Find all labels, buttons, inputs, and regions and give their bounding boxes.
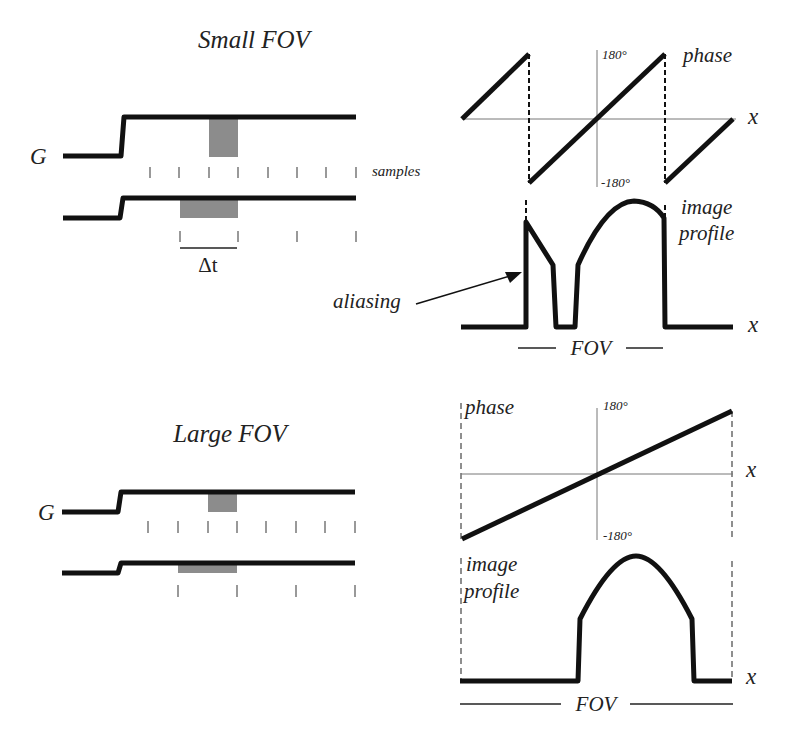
sample-ticks	[150, 167, 356, 178]
profile-label-line2: profile	[677, 221, 734, 245]
small-fov-phase-plot: 180° -180° phase x	[462, 43, 759, 190]
x-axis-label: x	[745, 457, 757, 482]
aliasing-label: aliasing	[333, 289, 401, 313]
phase-segment	[462, 54, 529, 119]
sample-interval-box	[208, 492, 237, 512]
sample-ticks	[178, 585, 355, 597]
large-fov-phase-plot: 180° -180° phase x	[461, 395, 757, 543]
samples-label: samples	[372, 163, 420, 179]
phase-max-label: 180°	[603, 398, 628, 413]
fov-label: FOV	[570, 336, 614, 360]
phase-min-label: -180°	[603, 528, 632, 543]
phase-label: phase	[463, 395, 514, 419]
phase-segment	[665, 119, 733, 183]
gradient-label: G	[30, 144, 47, 169]
aliasing-arrow	[416, 272, 522, 304]
large-fov-image-profile: image profile x FOV	[460, 552, 757, 716]
gradient-label: G	[38, 500, 55, 525]
profile-label-line1: image	[681, 195, 732, 219]
x-axis-label: x	[747, 104, 759, 129]
phase-min-label: -180°	[601, 175, 630, 190]
phase-max-label: 180°	[602, 47, 627, 62]
large-fov-title: Large FOV	[172, 420, 289, 447]
profile-label-line1: image	[466, 552, 517, 576]
small-fov-gradient-strong: G samples	[30, 117, 420, 179]
profile-x-label: x	[747, 312, 759, 337]
large-fov-panel: Large FOV G	[38, 395, 757, 716]
small-fov-panel: Small FOV G samples	[30, 26, 759, 360]
small-fov-image-profile: image profile x aliasing FOV	[333, 195, 759, 360]
large-fov-gradient-weak	[62, 563, 355, 597]
small-fov-title: Small FOV	[198, 26, 313, 53]
sample-ticks	[180, 231, 356, 242]
large-fov-gradient-strong: G	[38, 492, 355, 533]
small-fov-gradient-weak: Δt	[63, 198, 356, 277]
fov-aliasing-diagram: Small FOV G samples	[0, 0, 802, 736]
sample-interval-box	[180, 198, 238, 218]
phase-label: phase	[681, 43, 732, 67]
sample-interval-box	[209, 117, 238, 157]
profile-label-line2: profile	[462, 579, 519, 603]
profile-x-label: x	[745, 664, 757, 689]
fov-label: FOV	[575, 692, 619, 716]
profile-curve	[461, 201, 733, 327]
delta-t-label: Δt	[198, 253, 218, 277]
sample-ticks	[148, 521, 355, 533]
